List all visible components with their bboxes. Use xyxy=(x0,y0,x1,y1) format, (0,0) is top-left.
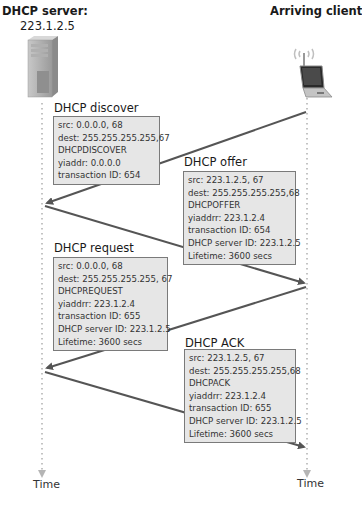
discover-line: DHCPDISCOVER xyxy=(58,144,155,157)
discover-message-box: src: 0.0.0.0, 68 dest: 255.255.255.255,6… xyxy=(53,116,160,185)
offer-line: DHCP server ID: 223.1.2.5 xyxy=(188,237,291,250)
discover-line: yiaddr: 0.0.0.0 xyxy=(58,157,155,170)
ack-line: transaction ID: 655 xyxy=(189,402,291,415)
client-title: Arriving client xyxy=(270,4,362,18)
ack-label: DHCP ACK xyxy=(185,336,244,350)
request-label: DHCP request xyxy=(54,241,134,255)
client-time-label: Time xyxy=(297,477,324,490)
discover-line: transaction ID: 654 xyxy=(58,169,155,182)
request-line: Lifetime: 3600 secs xyxy=(58,336,163,349)
request-message-box: src: 0.0.0.0, 68 dest: 255.255.255.255, … xyxy=(53,257,168,351)
wireless-laptop-icon xyxy=(284,44,334,100)
ack-line: DHCPACK xyxy=(189,377,291,390)
ack-message-box: src: 223.1.2.5, 67 dest: 255.255.255.255… xyxy=(184,349,296,443)
server-tower-icon xyxy=(25,36,59,98)
request-line: dest: 255.255.255.255, 67 xyxy=(58,273,163,286)
offer-label: DHCP offer xyxy=(184,155,247,169)
request-line: DHCP server ID: 223.1.2.5 xyxy=(58,323,163,336)
discover-line: dest: 255.255.255.255,67 xyxy=(58,132,155,145)
server-title: DHCP server: xyxy=(2,4,88,18)
request-line: src: 0.0.0.0, 68 xyxy=(58,260,163,273)
request-line: yiaddrr: 223.1.2.4 xyxy=(58,298,163,311)
ack-line: yiaddrr: 223.1.2.4 xyxy=(189,390,291,403)
ack-line: dest: 255.255.255.255,68 xyxy=(189,365,291,378)
ack-line: Lifetime: 3600 secs xyxy=(189,428,291,441)
offer-line: dest: 255.255.255.255,68 xyxy=(188,187,291,200)
server-time-label: Time xyxy=(33,478,60,491)
offer-message-box: src: 223.1.2.5, 67 dest: 255.255.255.255… xyxy=(183,171,296,265)
discover-line: src: 0.0.0.0, 68 xyxy=(58,119,155,132)
request-line: transaction ID: 655 xyxy=(58,310,163,323)
ack-line: src: 223.1.2.5, 67 xyxy=(189,352,291,365)
offer-line: src: 223.1.2.5, 67 xyxy=(188,174,291,187)
discover-label: DHCP discover xyxy=(54,101,139,115)
request-line: DHCPREQUEST xyxy=(58,285,163,298)
offer-line: transaction ID: 654 xyxy=(188,224,291,237)
server-address: 223.1.2.5 xyxy=(20,19,75,33)
offer-line: DHCPOFFER xyxy=(188,199,291,212)
offer-line: Lifetime: 3600 secs xyxy=(188,250,291,263)
ack-line: DHCP server ID: 223.1.2.5 xyxy=(189,415,291,428)
offer-line: yiaddrr: 223.1.2.4 xyxy=(188,212,291,225)
